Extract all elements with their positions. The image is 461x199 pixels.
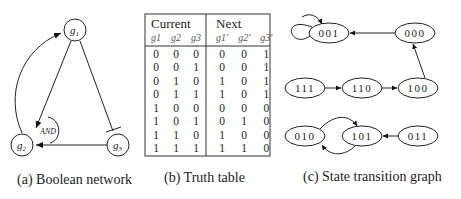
table-cell: 1 — [186, 115, 206, 129]
table-cell: 0 — [255, 129, 277, 143]
table-cell: 0 — [255, 102, 277, 116]
table-cell: 0 — [233, 48, 255, 62]
table-cell: 0 — [206, 61, 233, 75]
table-cell: 0 — [166, 61, 186, 75]
table-cell: 0 — [146, 48, 166, 62]
caption-a: (a) Boolean network — [17, 172, 132, 188]
table-cell: 1 — [255, 88, 277, 102]
current-header: Current — [146, 17, 206, 31]
table-cell: 0 — [146, 61, 166, 75]
table-cell: 1 — [146, 115, 166, 129]
state-011: 011 — [408, 130, 429, 142]
table-cell: 0 — [233, 61, 255, 75]
table-row: 100000 — [146, 102, 277, 116]
table-cell: 1 — [186, 88, 206, 102]
state-010: 010 — [295, 130, 316, 142]
col-header: g1' — [206, 31, 233, 48]
table-cell: 0 — [255, 115, 277, 129]
table-cell: 1 — [206, 142, 233, 156]
table-cell: 0 — [233, 75, 255, 89]
table-cell: 1 — [166, 142, 186, 156]
table-row: 011101 — [146, 88, 277, 102]
state-101: 101 — [352, 130, 373, 142]
table-cell: 1 — [206, 75, 233, 89]
table-cell: 0 — [206, 48, 233, 62]
state-000: 000 — [405, 27, 426, 39]
state-111: 111 — [295, 82, 315, 94]
table-cell: 0 — [233, 129, 255, 143]
table-cell: 1 — [255, 61, 277, 75]
table-cell: 1 — [255, 75, 277, 89]
table-cell: 1 — [146, 142, 166, 156]
table-cell: 0 — [186, 102, 206, 116]
table-cell: 1 — [166, 75, 186, 89]
table-cell: 1 — [255, 48, 277, 62]
col-header: g3' — [255, 31, 277, 48]
table-cell: 1 — [166, 129, 186, 143]
table-row: 010101 — [146, 75, 277, 89]
table-cell: 1 — [206, 88, 233, 102]
table-row: 101010 — [146, 115, 277, 129]
col-header: g3 — [186, 31, 206, 48]
table-cell: 0 — [233, 102, 255, 116]
table-cell: 0 — [206, 115, 233, 129]
table-cell: 0 — [186, 129, 206, 143]
table-cell: 0 — [233, 88, 255, 102]
table-cell: 0 — [206, 102, 233, 116]
table-cell: 1 — [186, 61, 206, 75]
and-label: AND — [39, 127, 56, 136]
table-cell: 1 — [146, 129, 166, 143]
table-cell: 1 — [186, 142, 206, 156]
state-001: 001 — [319, 27, 340, 39]
table-row: 111110 — [146, 142, 277, 156]
table-cell: 0 — [146, 75, 166, 89]
table-row: 001001 — [146, 61, 277, 75]
table-cell: 0 — [146, 88, 166, 102]
table-cell: 0 — [186, 48, 206, 62]
next-header: Next — [206, 17, 277, 31]
table-cell: 0 — [166, 48, 186, 62]
table-row: 000001 — [146, 48, 277, 62]
state-110: 110 — [352, 82, 373, 94]
table-cell: 1 — [206, 129, 233, 143]
table-row: 110100 — [146, 129, 277, 143]
figure: g1 g2 g3 AND — [0, 0, 461, 199]
table-cell: 1 — [146, 102, 166, 116]
table-cell: 1 — [166, 88, 186, 102]
table-body: 0000010010010101010111011000001010101101… — [146, 48, 277, 156]
caption-c: (c) State transition graph — [303, 169, 442, 185]
boolean-network — [11, 19, 129, 156]
state-100: 100 — [408, 82, 429, 94]
caption-b: (b) Truth table — [164, 170, 245, 186]
truth-table: CurrentNext g1 g2 g3 g1' g2' g3' 0000010… — [146, 17, 277, 156]
table-cell: 1 — [233, 142, 255, 156]
table-cell: 0 — [186, 75, 206, 89]
table-cell: 1 — [233, 115, 255, 129]
table-cell: 0 — [166, 102, 186, 116]
table-cell: 0 — [255, 142, 277, 156]
col-header: g2' — [233, 31, 255, 48]
col-header: g2 — [166, 31, 186, 48]
table-cell: 0 — [166, 115, 186, 129]
col-header: g1 — [146, 31, 166, 48]
